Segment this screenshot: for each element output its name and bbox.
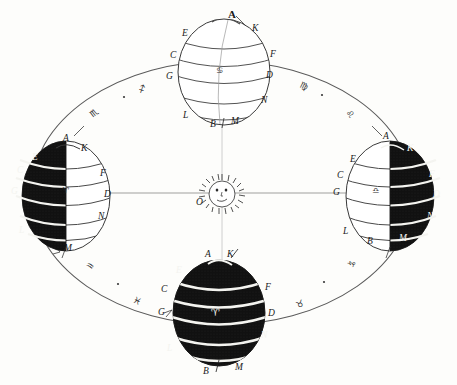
figure-plate: O A K E C F G D N L B M ♋ A K E C F G D … <box>0 0 457 385</box>
orbit-direction-arrows <box>53 247 172 317</box>
globe-left <box>0 126 116 265</box>
globe-bottom <box>163 249 275 372</box>
astronomical-diagram-canvas <box>0 0 457 385</box>
globe-top <box>168 16 280 128</box>
globe-right <box>340 126 450 265</box>
